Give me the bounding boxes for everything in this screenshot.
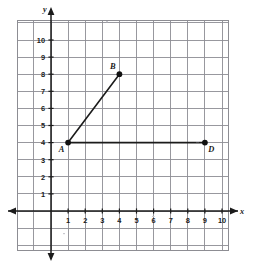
x-axis-label: x xyxy=(239,207,244,216)
x-tick-label: 1 xyxy=(66,216,70,225)
y-tick-label: 3 xyxy=(41,156,45,165)
x-tick-label: 3 xyxy=(100,216,104,225)
point-label-b: B xyxy=(109,62,116,71)
point-marker-d xyxy=(202,140,208,146)
y-tick-label: 8 xyxy=(41,70,45,79)
y-tick-label: 2 xyxy=(41,173,45,182)
y-tick-label: 10 xyxy=(37,36,45,45)
y-tick-label: 6 xyxy=(41,104,45,113)
x-tick-label: 5 xyxy=(134,216,138,225)
y-tick-label: 7 xyxy=(41,87,45,96)
x-tick-label: 10 xyxy=(218,216,226,225)
point-label-d: D xyxy=(207,145,214,154)
point-marker-a xyxy=(65,140,71,146)
y-tick-label: 9 xyxy=(41,53,45,62)
y-axis-label: y xyxy=(42,5,47,14)
x-tick-label: 2 xyxy=(83,216,87,225)
x-tick-label: 7 xyxy=(169,216,173,225)
x-tick-label: 8 xyxy=(186,216,190,225)
coordinate-plane-svg: 1234567891012345678910 ABD y x xyxy=(0,0,253,268)
point-marker-b xyxy=(117,71,123,77)
point-label-a: A xyxy=(58,145,65,154)
x-tick-label: 9 xyxy=(203,216,207,225)
coordinate-plane-figure: 1234567891012345678910 ABD y x xyxy=(0,0,253,268)
y-tick-label: 1 xyxy=(41,190,45,199)
y-tick-label: 5 xyxy=(41,121,45,130)
